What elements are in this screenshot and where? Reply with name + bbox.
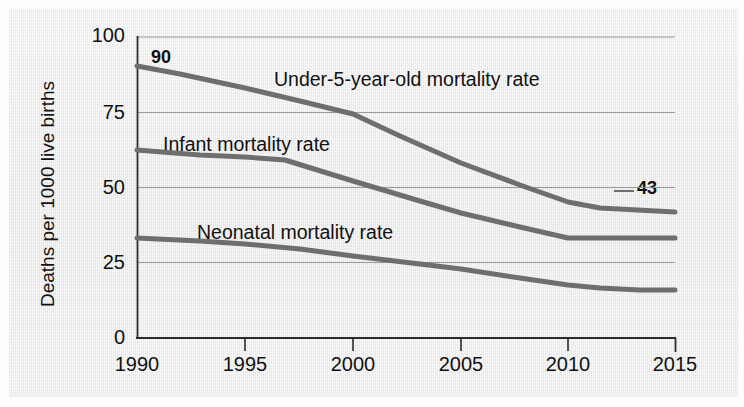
page-margin-bottom	[0, 397, 744, 407]
series-line-neonatal	[137, 238, 675, 290]
series-line-under5	[137, 66, 675, 212]
mortality-rate-chart-figure: Deaths per 1000 live births 0 25 50 75 1…	[0, 0, 744, 407]
plot-area	[0, 0, 744, 407]
page-margin-top	[0, 0, 744, 9]
page-margin-right	[738, 0, 744, 407]
gridlines	[137, 37, 675, 263]
series-line-infant	[137, 150, 675, 238]
x-tick-marks	[245, 338, 568, 351]
page-margin-left	[0, 0, 9, 407]
